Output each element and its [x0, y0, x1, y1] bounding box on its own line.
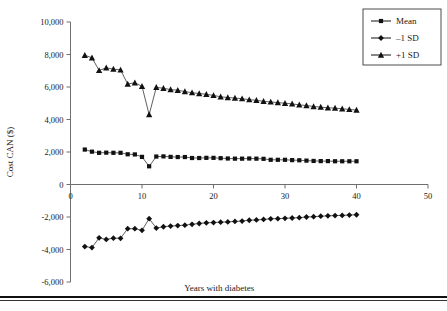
marker-diamond-s1 [189, 221, 195, 227]
marker-diamond-s1 [239, 218, 245, 224]
marker-square-s0 [276, 158, 280, 162]
marker-square-s0 [333, 159, 337, 163]
y-axis-title: Cost CAN ($) [5, 127, 15, 178]
y-tick-label: 0 [59, 180, 63, 190]
marker-triangle-s2 [139, 83, 145, 89]
y-tick-label: 10,000 [40, 17, 63, 27]
marker-diamond-s1 [103, 237, 109, 243]
marker-diamond-s1 [254, 217, 260, 223]
marker-square-s0 [254, 157, 258, 161]
marker-square-s0 [169, 155, 173, 159]
marker-diamond-s1 [318, 213, 324, 219]
marker-square-s0 [118, 151, 122, 155]
marker-square-s0 [319, 159, 323, 163]
marker-diamond-s1 [96, 235, 102, 241]
marker-square-s0 [354, 159, 358, 163]
marker-diamond-s1 [304, 214, 310, 220]
x-tick-label: 10 [138, 191, 147, 201]
marker-diamond-s1 [275, 216, 281, 222]
marker-square-s0 [233, 157, 237, 161]
legend-label-1: –1 SD [395, 33, 419, 43]
marker-square-s0 [147, 164, 151, 168]
marker-diamond-s1 [225, 219, 231, 225]
marker-diamond-s1 [139, 227, 145, 233]
marker-square-s0 [111, 151, 115, 155]
marker-square-s0 [104, 151, 108, 155]
marker-diamond-s1 [282, 215, 288, 221]
y-tick-label: 4,000 [44, 115, 63, 125]
y-tick-label: 2,000 [44, 147, 63, 157]
marker-diamond-s1 [289, 215, 295, 221]
marker-square-s0 [83, 147, 87, 151]
marker-square-s0 [261, 157, 265, 161]
marker-triangle-s2 [103, 65, 109, 71]
marker-diamond-s1 [182, 222, 188, 228]
marker-square-s0 [297, 158, 301, 162]
marker-square-s0 [161, 154, 165, 158]
marker-diamond-s1 [132, 226, 138, 232]
marker-diamond-s1 [175, 223, 181, 229]
x-tick-label: 40 [352, 191, 361, 201]
marker-square-s0 [240, 157, 244, 161]
figure-bottom-rule-secondary [0, 300, 447, 301]
marker-square-s0 [283, 158, 287, 162]
y-tick-label: -2,000 [42, 212, 64, 222]
marker-square-s0 [304, 159, 308, 163]
marker-diamond-s1 [325, 213, 331, 219]
marker-diamond-s1 [354, 212, 360, 218]
marker-diamond-s1 [218, 219, 224, 225]
marker-diamond-s1 [339, 212, 345, 218]
chart-canvas: -6,000-4,000-2,00002,0004,0006,0008,0001… [0, 0, 447, 311]
marker-square-s0 [126, 152, 130, 156]
marker-square-s0 [269, 158, 273, 162]
marker-square-s0 [197, 156, 201, 160]
x-axis-title: Years with diabetes [184, 283, 255, 293]
marker-square-s0 [290, 158, 294, 162]
marker-diamond-s1 [153, 225, 159, 231]
x-tick-label: 50 [424, 191, 433, 201]
marker-diamond-s1 [211, 220, 217, 226]
marker-square-s0 [133, 152, 137, 156]
marker-square-s0 [190, 156, 194, 160]
marker-square-s0 [340, 159, 344, 163]
marker-square-s0 [326, 159, 330, 163]
marker-square-s0 [211, 156, 215, 160]
x-tick-label: 0 [68, 191, 72, 201]
legend-label-0: Mean [396, 16, 417, 26]
x-tick-label: 20 [209, 191, 218, 201]
marker-triangle-s2 [82, 52, 88, 58]
marker-diamond-s1 [118, 235, 124, 241]
marker-square-s0 [97, 151, 101, 155]
marker-diamond-s1 [311, 214, 317, 220]
marker-square-s0 [219, 156, 223, 160]
marker-diamond-s1 [82, 244, 88, 250]
marker-square-s0 [226, 156, 230, 160]
marker-square-s0 [312, 159, 316, 163]
marker-diamond-s1 [168, 223, 174, 229]
marker-diamond-s1 [203, 220, 209, 226]
legend-label-2: +1 SD [396, 50, 420, 60]
figure-bottom-rule [0, 296, 447, 298]
y-tick-label: -4,000 [42, 245, 64, 255]
marker-square-s0 [204, 156, 208, 160]
y-tick-label: -6,000 [42, 277, 64, 287]
marker-triangle-s2 [132, 79, 138, 85]
marker-diamond-s1 [261, 217, 267, 223]
marker-diamond-s1 [296, 215, 302, 221]
y-tick-label: 6,000 [44, 82, 63, 92]
marker-diamond-s1 [111, 235, 117, 241]
marker-square-s0 [183, 155, 187, 159]
marker-diamond-s1 [146, 216, 152, 222]
marker-diamond-s1 [332, 213, 338, 219]
marker-square-legend-0 [379, 19, 383, 23]
marker-diamond-s1 [346, 212, 352, 218]
marker-diamond-s1 [268, 216, 274, 222]
marker-diamond-s1 [246, 217, 252, 223]
marker-square-s0 [154, 154, 158, 158]
marker-square-s0 [247, 156, 251, 160]
x-tick-label: 30 [281, 191, 290, 201]
marker-triangle-s2 [96, 67, 102, 73]
y-tick-label: 8,000 [44, 50, 63, 60]
marker-triangle-s2 [153, 84, 159, 90]
marker-square-s0 [140, 155, 144, 159]
